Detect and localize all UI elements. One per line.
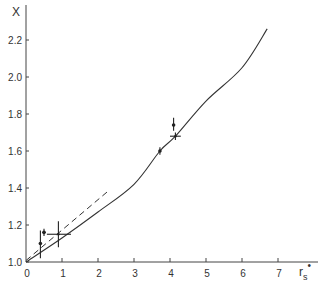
- x-tick-label: 4: [168, 268, 174, 279]
- x-tick-label: 6: [240, 268, 246, 279]
- cross-marker: [170, 133, 181, 140]
- y-tick-label: 1.4: [8, 183, 22, 194]
- chart: 1.01.21.41.61.82.02.2 01234567 X rs•: [0, 0, 319, 289]
- data-point: [39, 231, 43, 259]
- data-points: [39, 118, 181, 259]
- y-axis-label: X: [12, 5, 20, 19]
- y-tick-label: 2.0: [8, 72, 22, 83]
- x-tick-label: 3: [132, 268, 138, 279]
- data-point: [172, 118, 176, 131]
- y-tick-label: 1.0: [8, 257, 22, 268]
- data-point: [158, 147, 162, 154]
- y-tick-label: 1.2: [8, 220, 22, 231]
- data-point: [42, 229, 46, 236]
- y-tick-label: 2.2: [8, 35, 22, 46]
- x-axis-label-sup: •: [308, 260, 312, 271]
- y-tick-label: 1.6: [8, 146, 22, 157]
- x-tick-label: 1: [60, 268, 66, 279]
- x-tick-label: 7: [276, 268, 282, 279]
- series: [26, 29, 267, 262]
- x-tick-label: 5: [204, 268, 210, 279]
- y-tick-label: 1.8: [8, 109, 22, 120]
- x-tick-label: 0: [24, 268, 30, 279]
- solid-curve: [26, 29, 267, 262]
- x-axis-label: rs•: [299, 260, 312, 282]
- axes: [26, 5, 318, 262]
- x-ticks: 01234567: [24, 258, 282, 279]
- x-axis-label-sub: s: [303, 272, 308, 282]
- dashed-line: [26, 192, 107, 260]
- x-tick-label: 2: [96, 268, 102, 279]
